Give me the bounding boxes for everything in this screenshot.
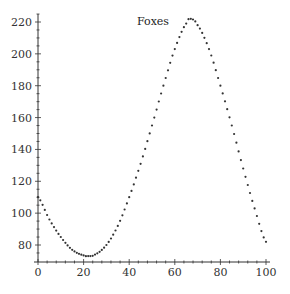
data-point bbox=[238, 150, 240, 152]
x-tick-label: 40 bbox=[122, 266, 136, 279]
data-point bbox=[76, 252, 78, 254]
data-point bbox=[133, 183, 135, 185]
data-point bbox=[181, 31, 183, 33]
data-point bbox=[96, 252, 98, 254]
data-point bbox=[112, 234, 114, 236]
axes: 80100120140160180200220020406080100 bbox=[11, 14, 277, 279]
data-point bbox=[39, 199, 41, 201]
data-point bbox=[46, 214, 48, 216]
data-point bbox=[247, 184, 249, 186]
x-tick-label: 100 bbox=[256, 266, 277, 279]
data-point bbox=[254, 207, 256, 209]
data-point bbox=[217, 77, 219, 79]
data-point bbox=[165, 77, 167, 79]
data-point bbox=[48, 218, 50, 220]
x-tick-label: 20 bbox=[77, 266, 91, 279]
data-point bbox=[153, 117, 155, 119]
data-point bbox=[233, 133, 235, 135]
data-point bbox=[210, 54, 212, 56]
data-point bbox=[144, 148, 146, 150]
data-point bbox=[167, 69, 169, 71]
data-point bbox=[146, 140, 148, 142]
data-point bbox=[224, 100, 226, 102]
data-point bbox=[124, 208, 126, 210]
data-point bbox=[121, 214, 123, 216]
data-point bbox=[228, 116, 230, 118]
data-point bbox=[162, 85, 164, 87]
data-point bbox=[242, 167, 244, 169]
data-point bbox=[222, 92, 224, 94]
data-point bbox=[85, 255, 87, 257]
data-point bbox=[251, 200, 253, 202]
x-tick-label: 0 bbox=[35, 266, 42, 279]
data-point bbox=[185, 23, 187, 25]
data-point bbox=[69, 247, 71, 249]
data-point bbox=[151, 124, 153, 126]
data-point bbox=[78, 253, 80, 255]
data-points bbox=[37, 18, 267, 258]
data-point bbox=[126, 202, 128, 204]
data-point bbox=[263, 236, 265, 238]
y-tick-label: 80 bbox=[18, 239, 32, 252]
data-point bbox=[135, 177, 137, 179]
data-point bbox=[73, 250, 75, 252]
data-point bbox=[80, 254, 82, 256]
data-point bbox=[219, 85, 221, 87]
data-point bbox=[71, 249, 73, 251]
data-point bbox=[55, 230, 57, 232]
y-tick-label: 140 bbox=[11, 143, 32, 156]
data-point bbox=[37, 196, 39, 198]
data-point bbox=[89, 255, 91, 257]
data-point bbox=[231, 124, 233, 126]
data-point bbox=[178, 36, 180, 38]
x-tick-label: 80 bbox=[213, 266, 227, 279]
data-point bbox=[194, 20, 196, 22]
data-point bbox=[67, 244, 69, 246]
data-point bbox=[117, 225, 119, 227]
data-point bbox=[258, 223, 260, 225]
data-point bbox=[62, 239, 64, 241]
data-point bbox=[240, 159, 242, 161]
data-point bbox=[244, 176, 246, 178]
data-point bbox=[190, 18, 192, 20]
data-point bbox=[142, 155, 144, 157]
data-point bbox=[149, 132, 151, 134]
data-point bbox=[201, 32, 203, 34]
data-point bbox=[53, 226, 55, 228]
data-point bbox=[60, 236, 62, 238]
data-point bbox=[130, 190, 132, 192]
data-point bbox=[101, 249, 103, 251]
data-point bbox=[226, 108, 228, 110]
data-point bbox=[158, 100, 160, 102]
y-tick-label: 120 bbox=[11, 175, 32, 188]
data-point bbox=[206, 42, 208, 44]
data-point bbox=[94, 254, 96, 256]
data-point bbox=[208, 48, 210, 50]
y-tick-label: 200 bbox=[11, 48, 32, 61]
data-point bbox=[192, 18, 194, 20]
data-point bbox=[235, 142, 237, 144]
data-point bbox=[203, 37, 205, 39]
data-point bbox=[87, 255, 89, 257]
data-point bbox=[199, 28, 201, 30]
data-point bbox=[99, 251, 101, 253]
data-point bbox=[260, 230, 262, 232]
data-point bbox=[187, 18, 189, 20]
data-point bbox=[256, 215, 258, 217]
data-point bbox=[44, 209, 46, 211]
data-point bbox=[197, 24, 199, 26]
data-point bbox=[114, 229, 116, 231]
data-point bbox=[213, 62, 215, 64]
data-point bbox=[57, 233, 59, 235]
data-point bbox=[215, 69, 217, 71]
y-tick-label: 160 bbox=[11, 112, 32, 125]
y-tick-label: 180 bbox=[11, 80, 32, 93]
data-point bbox=[160, 92, 162, 94]
data-point bbox=[156, 109, 158, 111]
y-tick-label: 100 bbox=[11, 207, 32, 220]
data-point bbox=[108, 241, 110, 243]
data-point bbox=[103, 247, 105, 249]
data-point bbox=[51, 222, 53, 224]
data-point bbox=[183, 26, 185, 28]
data-point bbox=[64, 242, 66, 244]
